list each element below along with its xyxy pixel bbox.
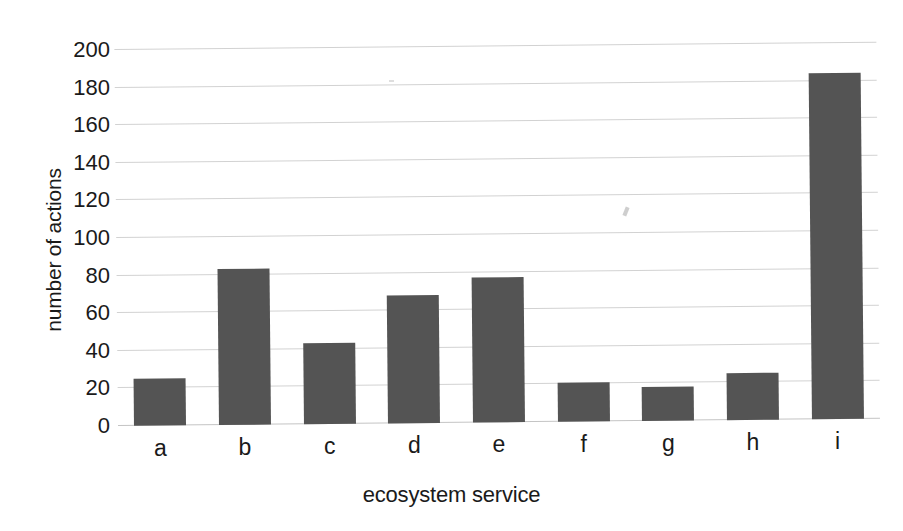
bar xyxy=(472,277,525,422)
y-tick-label: 120 xyxy=(36,189,110,211)
y-tick-label: 100 xyxy=(36,227,110,249)
y-tick-label: 140 xyxy=(36,152,110,174)
bar xyxy=(727,373,779,420)
y-axis-tick-labels: 020406080100120140160180200 xyxy=(36,50,110,426)
x-tick-label: i xyxy=(835,430,840,453)
bar xyxy=(134,378,186,425)
bar xyxy=(642,387,694,421)
scan-speckle xyxy=(389,80,394,82)
x-tick-label: c xyxy=(324,435,336,458)
x-tick-label: d xyxy=(408,434,421,457)
y-tick-label: 180 xyxy=(36,77,110,99)
x-tick-label: b xyxy=(239,436,252,459)
bar xyxy=(808,73,863,419)
x-axis-tick-labels: abcdefghi xyxy=(118,437,880,471)
y-tick-label: 80 xyxy=(36,265,110,287)
x-tick-label: f xyxy=(580,433,586,456)
y-tick-label: 0 xyxy=(36,415,110,437)
plot-area xyxy=(114,43,880,426)
y-tick-label: 160 xyxy=(36,114,110,136)
bar xyxy=(303,343,356,424)
x-tick-label: h xyxy=(747,431,760,454)
x-tick-label: g xyxy=(662,432,675,455)
bar xyxy=(557,382,609,422)
bar xyxy=(387,295,440,423)
bars-group xyxy=(114,43,880,426)
x-tick-label: a xyxy=(154,437,167,460)
y-tick-label: 40 xyxy=(36,340,110,362)
x-axis-title: ecosystem service xyxy=(0,482,903,508)
x-tick-label: e xyxy=(493,433,506,456)
bar-chart-figure: number of actions 0204060801001201401601… xyxy=(0,0,903,531)
y-tick-label: 60 xyxy=(36,302,110,324)
bar xyxy=(217,269,270,426)
y-tick-label: 20 xyxy=(36,377,110,399)
y-tick-label: 200 xyxy=(36,39,110,61)
